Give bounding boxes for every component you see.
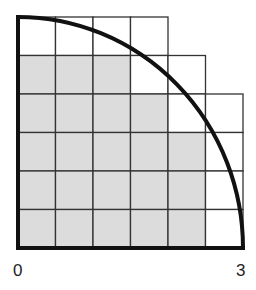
unshaded-cell <box>18 17 56 56</box>
origin-label: 0 <box>13 262 22 279</box>
shaded-cell <box>131 210 169 249</box>
radius-end-label: 3 <box>236 262 245 279</box>
shaded-cell <box>131 94 169 133</box>
shaded-cell <box>18 56 56 95</box>
shaded-cell <box>56 210 94 249</box>
grid-and-arc-graphic <box>0 0 256 290</box>
shaded-cell <box>168 133 206 172</box>
grid-cells <box>18 17 243 248</box>
shaded-cell <box>93 171 131 210</box>
shaded-cell <box>18 210 56 249</box>
shaded-cell <box>93 56 131 95</box>
shaded-cell <box>56 94 94 133</box>
shaded-cell <box>93 210 131 249</box>
quarter-circle-grid-diagram: 0 3 <box>0 0 256 290</box>
shaded-cell <box>18 94 56 133</box>
unshaded-cell <box>168 56 206 95</box>
shaded-cell <box>56 133 94 172</box>
unshaded-cell <box>206 210 244 249</box>
shaded-cell <box>18 133 56 172</box>
shaded-cell <box>168 210 206 249</box>
shaded-cell <box>56 171 94 210</box>
shaded-cell <box>168 171 206 210</box>
shaded-cell <box>93 133 131 172</box>
shaded-cell <box>131 171 169 210</box>
shaded-cell <box>131 133 169 172</box>
shaded-cell <box>18 171 56 210</box>
shaded-cell <box>56 56 94 95</box>
shaded-cell <box>93 94 131 133</box>
